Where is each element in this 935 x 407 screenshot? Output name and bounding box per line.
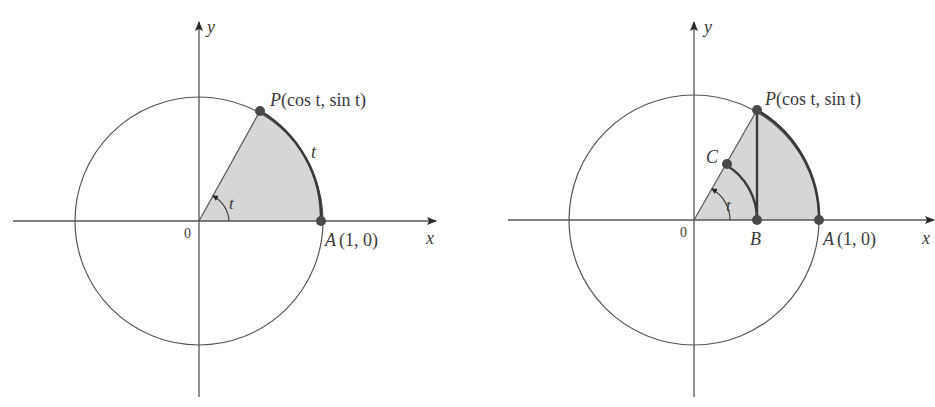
arc-t-label: t (311, 142, 317, 162)
point-a (814, 215, 824, 225)
point-b-label: B (750, 229, 761, 249)
point-p-name: P (269, 90, 281, 110)
right-diagram: y x 0 P(cos t, sin t) C t B A(1, 0) (508, 17, 934, 397)
point-p-name: P (764, 89, 776, 109)
point-p-coords: (cos t, sin t) (281, 90, 366, 111)
left-diagram: y x 0 P(cos t, sin t) t t A(1, 0) (13, 17, 436, 397)
point-p-label: P(cos t, sin t) (269, 90, 366, 111)
y-axis-label: y (205, 17, 215, 37)
point-c-label: C (706, 147, 719, 167)
point-p-coords: (cos t, sin t) (776, 89, 861, 110)
origin-label: 0 (184, 226, 191, 241)
point-a-label: A(1, 0) (822, 229, 876, 250)
x-axis-label: x (921, 228, 930, 248)
shaded-sector (199, 111, 321, 221)
unit-circle-figure: y x 0 P(cos t, sin t) t t A(1, 0) (0, 0, 935, 407)
point-a (316, 216, 326, 226)
point-a-coords: (1, 0) (339, 230, 378, 251)
point-c (722, 159, 732, 169)
x-axis-label: x (425, 228, 434, 248)
point-b (752, 215, 762, 225)
point-p-label: P(cos t, sin t) (764, 89, 861, 110)
point-a-coords: (1, 0) (837, 229, 876, 250)
point-a-name: A (324, 230, 337, 250)
origin-label: 0 (680, 225, 687, 240)
y-axis-label: y (702, 17, 712, 37)
point-a-label: A(1, 0) (324, 230, 378, 251)
point-p (752, 105, 762, 115)
point-a-name: A (822, 229, 835, 249)
point-p (255, 106, 265, 116)
